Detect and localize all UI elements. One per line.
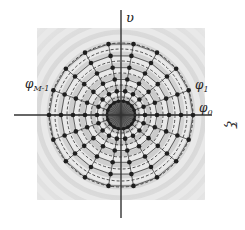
sample-dot [108,54,113,59]
sample-dot [110,160,115,165]
sample-dot [107,133,112,138]
sample-dot [112,77,117,82]
sample-dot [71,113,76,118]
sample-dot [137,144,142,149]
sample-dot [62,133,67,138]
sample-dot [131,92,136,97]
sample-dot [85,100,90,105]
sample-dot [74,129,79,134]
sample-dot [153,100,158,105]
sample-dot [64,66,69,71]
sample-dot [73,151,78,156]
sample-dot [74,96,79,101]
sample-dot [107,92,112,97]
sample-dot [186,137,191,142]
sample-dot [164,129,169,134]
upsilon-axis-label: υ [126,10,134,25]
center-dot [132,108,136,112]
sample-dot [73,74,78,79]
center-dot [112,101,116,105]
polar-grid-diagram: υ ξ φ0 φ1 φM-1 [0,0,245,230]
sample-dot [96,121,101,126]
sample-dot [82,82,87,87]
sample-dot [127,65,132,70]
sample-dot [127,160,132,165]
sample-dot [155,113,160,118]
sample-dot [143,154,148,159]
sample-dot [62,92,67,97]
sample-dot [149,61,154,66]
sample-dot [64,159,69,164]
center-dot [126,101,130,105]
sample-dot [91,136,96,141]
sample-dot [155,144,160,149]
center-dot [106,108,110,112]
sample-dot [95,154,100,159]
sample-dot [131,184,136,189]
sample-dot [83,175,88,180]
sample-dot [101,144,106,149]
sample-dot [149,165,154,170]
sample-dot [175,133,180,138]
sample-dot [174,66,179,71]
sample-dot [155,50,160,55]
sample-dot [141,104,146,109]
sample-dot [85,125,90,130]
sample-dot [106,42,111,47]
center-dot [117,99,121,103]
center-dot [108,122,112,126]
sample-dot [137,128,142,133]
sample-dot [137,97,142,102]
center-dot [122,127,126,131]
sample-dot [174,159,179,164]
sample-dot [110,65,115,70]
sample-dot [129,54,134,59]
sample-dot [82,144,87,149]
sample-dot [165,151,170,156]
sample-dot [164,96,169,101]
center-dot [112,125,116,129]
sample-dot [143,113,148,118]
center-dot [108,104,112,108]
sample-dot [51,88,56,93]
sample-dot [131,42,136,47]
sample-dot [100,97,105,102]
center-dot [117,127,121,131]
sample-dot [112,148,117,153]
sample-dot [125,148,130,153]
phi-0-label: φ0 [199,101,213,117]
sample-dot [83,50,88,55]
sample-dot [143,71,148,76]
sample-dot [115,136,120,141]
sample-dot [106,184,111,189]
sample-dot [191,113,196,118]
sample-dot [47,113,52,118]
sample-dot [167,113,172,118]
sample-dot [186,88,191,93]
sample-dot [100,128,105,133]
sample-dot [125,77,130,82]
sample-dot [137,82,142,87]
sample-dot [155,175,160,180]
sample-dot [131,133,136,138]
sample-dot [146,90,151,95]
sample-dot [59,113,64,118]
sample-dot [155,82,160,87]
sample-dot [96,104,101,109]
sample-dot [95,113,100,118]
sample-dot [115,89,120,94]
sample-dot [89,61,94,66]
xi-axis-label: ξ [224,121,239,129]
sample-dot [146,136,151,141]
sample-dot [89,165,94,170]
sample-dot [141,121,146,126]
sample-dot [123,89,128,94]
center-dot [106,118,110,122]
sample-dot [95,71,100,76]
sample-dot [129,172,134,177]
sample-dot [108,172,113,177]
sample-dot [123,136,128,141]
sample-dot [165,74,170,79]
center-dot [122,99,126,103]
center-dot [130,104,134,108]
